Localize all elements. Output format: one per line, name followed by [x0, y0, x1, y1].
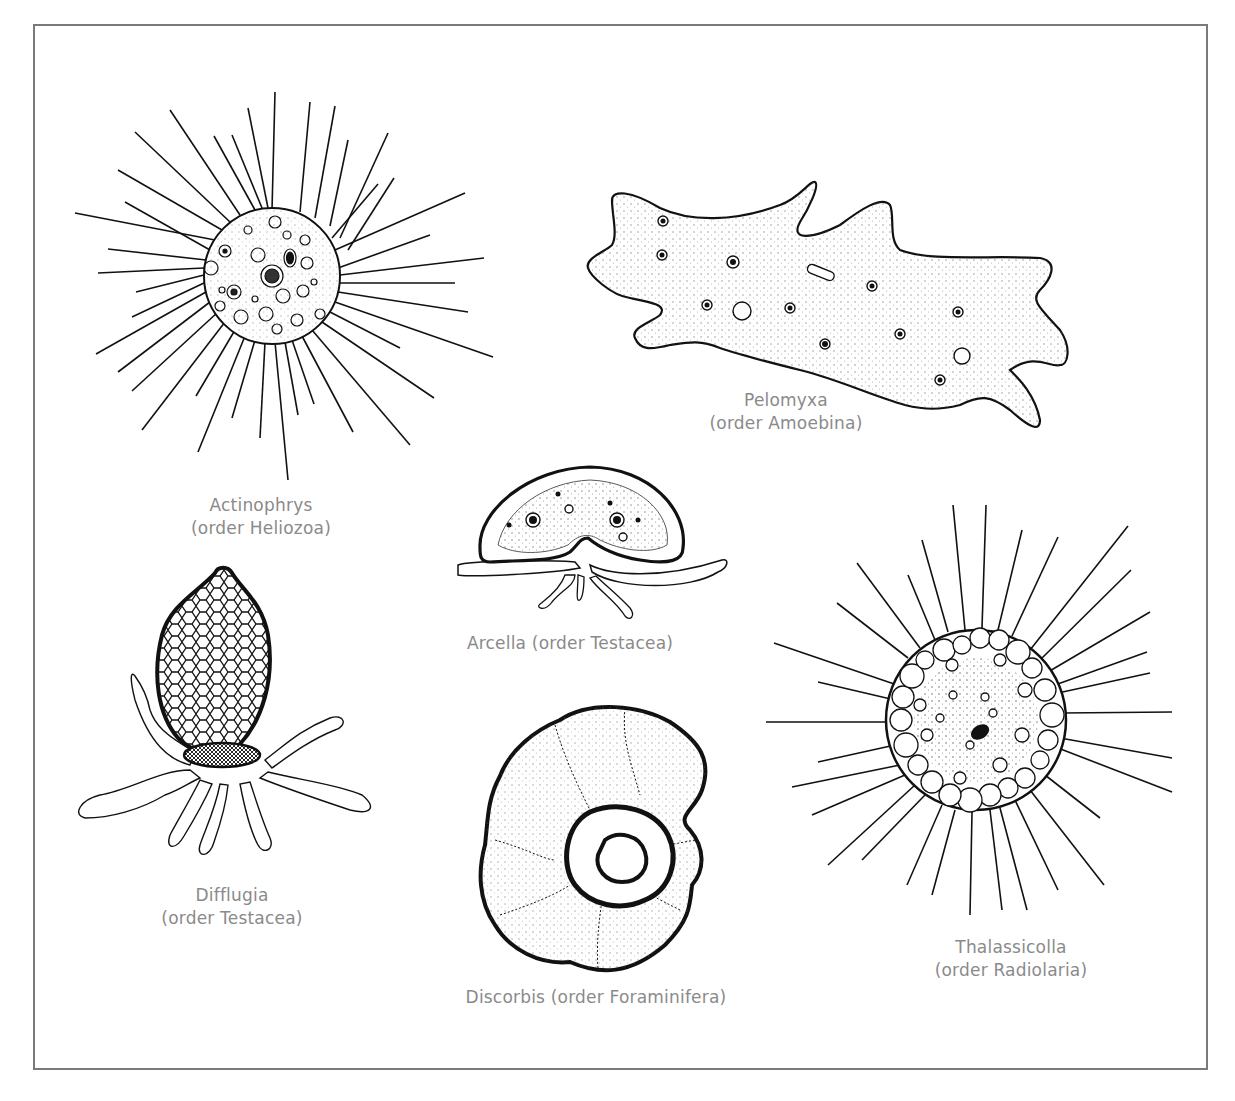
discorbis-illustration	[481, 707, 706, 970]
organism-name: Actinophrys	[158, 494, 364, 517]
arcella-illustration	[458, 467, 727, 618]
difflugia-illustration	[79, 568, 371, 855]
label-discorbis: Discorbis (order Foraminifera)	[436, 986, 756, 1009]
organism-order: (order Testacea)	[132, 907, 332, 930]
label-arcella: Arcella (order Testacea)	[440, 632, 700, 655]
organism-name: Thalassicolla	[905, 936, 1117, 959]
label-actinophrys: Actinophrys (order Heliozoa)	[158, 494, 364, 540]
label-difflugia: Difflugia (order Testacea)	[132, 884, 332, 930]
organism-order: (order Amoebina)	[680, 412, 892, 435]
actinophrys-illustration	[75, 92, 493, 480]
organism-order: (order Radiolaria)	[905, 959, 1117, 982]
label-thalassicolla: Thalassicolla (order Radiolaria)	[905, 936, 1117, 982]
organism-order: (order Heliozoa)	[158, 517, 364, 540]
thalassicolla-illustration	[766, 505, 1172, 915]
organism-name: Arcella (order Testacea)	[440, 632, 700, 655]
organism-name: Discorbis (order Foraminifera)	[436, 986, 756, 1009]
label-pelomyxa: Pelomyxa (order Amoebina)	[680, 389, 892, 435]
organism-name: Difflugia	[132, 884, 332, 907]
organism-name: Pelomyxa	[680, 389, 892, 412]
